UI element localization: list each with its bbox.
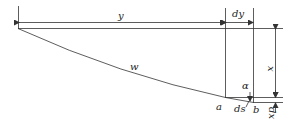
chord-ds bbox=[226, 98, 254, 103]
label-point-a: a bbox=[216, 101, 222, 112]
label-dy: dy bbox=[232, 8, 244, 19]
label-x: x bbox=[266, 66, 277, 72]
label-ds: ds bbox=[234, 103, 246, 114]
label-dx: dx bbox=[267, 107, 278, 119]
label-w: w bbox=[130, 61, 139, 72]
ds-leader bbox=[246, 101, 249, 107]
curve-element-diagram: y dy w x α a ds b dx bbox=[0, 0, 295, 124]
label-y: y bbox=[117, 10, 124, 21]
curve-w bbox=[18, 29, 226, 98]
label-point-b: b bbox=[253, 104, 259, 115]
label-alpha: α bbox=[242, 80, 249, 91]
